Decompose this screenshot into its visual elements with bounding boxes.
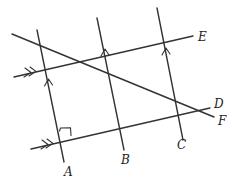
double-arrow-icon-E	[24, 67, 36, 77]
double-arrow-icon-D	[41, 139, 53, 149]
label-B: B	[120, 153, 130, 167]
label-C: C	[177, 138, 186, 152]
label-F: F	[217, 114, 227, 128]
line-F	[12, 34, 214, 117]
right-angle-icon	[60, 128, 72, 136]
label-D: D	[213, 97, 224, 111]
line-C	[157, 8, 183, 140]
geometry-diagram: E D F A B C	[0, 0, 237, 187]
label-E: E	[197, 30, 207, 44]
label-A: A	[63, 165, 73, 179]
